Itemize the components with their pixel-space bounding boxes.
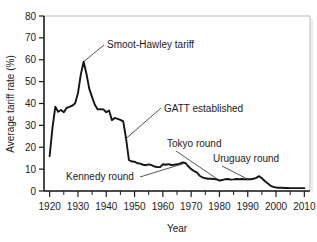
x-axis-title: Year <box>167 223 188 234</box>
x-tick-label: 2000 <box>265 201 288 212</box>
y-tick-label: 50 <box>25 76 37 87</box>
y-tick-label: 0 <box>30 186 36 197</box>
annotation-uruguay-round: Uruguay round <box>213 153 279 164</box>
y-axis-tick-labels: 01020304050607080 <box>25 11 37 197</box>
leader-line-gatt-established <box>126 108 161 139</box>
leader-line-smoot-hawley <box>84 45 104 62</box>
y-tick-label: 10 <box>25 164 37 175</box>
x-tick-label: 1960 <box>152 201 175 212</box>
y-tick-label: 20 <box>25 142 37 153</box>
y-tick-label: 60 <box>25 54 37 65</box>
x-tick-label: 1980 <box>208 201 231 212</box>
y-axis-title: Average tariff rate (%) <box>5 55 16 152</box>
annotation-smoot-hawley: Smoot-Hawley tariff <box>107 39 194 50</box>
x-tick-label: 2010 <box>293 201 316 212</box>
x-tick-label: 1940 <box>95 201 118 212</box>
y-tick-label: 80 <box>25 11 37 22</box>
frame-shadow <box>311 18 313 193</box>
annotation-kennedy-round: Kennedy round <box>66 171 134 182</box>
tariff-rate-line <box>50 62 305 188</box>
x-axis-tick-labels: 1920193019401950196019701980199020002010 <box>39 201 316 212</box>
y-tick-label: 70 <box>25 32 37 43</box>
tariff-rate-chart-figure: 01020304050607080 1920193019401950196019… <box>0 0 317 242</box>
annotation-gatt-established: GATT established <box>164 103 243 114</box>
x-tick-label: 1990 <box>237 201 260 212</box>
x-tick-label: 1970 <box>180 201 203 212</box>
y-tick-label: 40 <box>25 98 37 109</box>
y-tick-label: 30 <box>25 120 37 131</box>
x-tick-label: 1930 <box>67 201 90 212</box>
x-tick-label: 1950 <box>123 201 146 212</box>
chart-canvas: 01020304050607080 1920193019401950196019… <box>0 0 317 242</box>
leader-line-uruguay-round <box>222 166 248 179</box>
x-tick-label: 1920 <box>39 201 62 212</box>
annotation-tokyo-round: Tokyo round <box>167 138 221 149</box>
